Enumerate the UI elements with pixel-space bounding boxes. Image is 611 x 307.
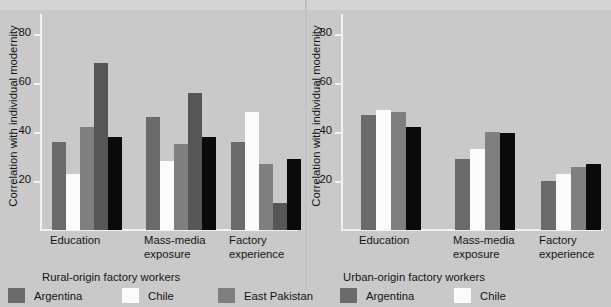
legend-label: Argentina — [366, 290, 414, 302]
bar — [391, 112, 406, 230]
bar — [273, 203, 287, 230]
bar — [376, 110, 391, 230]
bar — [406, 127, 421, 230]
bar — [259, 164, 273, 230]
legend-swatch — [122, 288, 139, 303]
category-label-line: Mass-media — [453, 234, 515, 248]
panel-rural: Correlation with individual modernity .8… — [0, 0, 305, 307]
category-label-line: exposure — [453, 248, 515, 262]
category-label: Education — [359, 234, 409, 248]
bar — [80, 127, 94, 230]
bar — [146, 117, 160, 230]
y-axis-tick-label: .60 — [306, 75, 332, 87]
legend: ArgentinaChileEast Pakistan — [0, 288, 305, 307]
category-label: Mass-mediaexposure — [144, 234, 206, 261]
figure: Correlation with individual modernity .8… — [0, 0, 611, 307]
category-label-line: exposure — [144, 248, 206, 262]
y-axis-tick-mark — [335, 181, 342, 183]
legend-swatch — [454, 288, 471, 303]
y-axis-tick-label: .80 — [0, 26, 31, 38]
bar — [455, 159, 470, 230]
bar — [66, 174, 80, 230]
y-axis-tick-mark — [335, 132, 342, 134]
category-label-line: Education — [50, 234, 100, 248]
category-label: Education — [50, 234, 100, 248]
category-label-line: Factory — [539, 234, 594, 248]
y-axis-tick-mark — [34, 34, 41, 36]
category-label: Factoryexperience — [229, 234, 284, 261]
legend-item[interactable]: Argentina — [8, 288, 82, 303]
legend-label: Chile — [480, 290, 506, 302]
bar — [571, 167, 586, 230]
y-axis-tick-mark — [34, 132, 41, 134]
category-label: Factoryexperience — [539, 234, 594, 261]
y-axis-tick-label: .40 — [306, 124, 332, 136]
category-labels: EducationMass-mediaexposureFactoryexperi… — [343, 234, 603, 266]
bar — [361, 115, 376, 230]
bar-group-bars — [361, 14, 421, 230]
y-axis-tick-label: .40 — [0, 124, 31, 136]
y-axis-tick-mark — [34, 181, 41, 183]
bar — [174, 144, 188, 230]
panel-caption: Rural-origin factory workers — [42, 271, 180, 283]
bar-group-bars — [146, 14, 216, 230]
plot-area — [42, 14, 298, 230]
bar — [202, 137, 216, 230]
legend-item[interactable]: East Pakistan — [218, 288, 313, 303]
y-axis-tick-label: .20 — [306, 173, 332, 185]
bar — [108, 137, 122, 230]
bar-group-bars — [231, 14, 301, 230]
category-label: Mass-mediaexposure — [453, 234, 515, 261]
plot-area — [343, 14, 603, 230]
y-axis-tick-label: .20 — [0, 173, 31, 185]
bar-group-bars — [541, 14, 601, 230]
legend-label: Argentina — [34, 290, 82, 302]
y-axis-tick-mark — [335, 83, 342, 85]
category-label-line: Mass-media — [144, 234, 206, 248]
bar — [556, 174, 571, 230]
bar-group-bars — [52, 14, 122, 230]
bar — [500, 133, 515, 230]
category-labels: EducationMass-mediaexposureFactoryexperi… — [42, 234, 298, 266]
y-axis-tick-mark — [335, 34, 342, 36]
category-label-line: experience — [229, 248, 284, 262]
bar — [52, 142, 66, 230]
legend-swatch — [218, 288, 235, 303]
y-axis-tick-mark — [34, 83, 41, 85]
bar — [245, 112, 259, 230]
bar — [541, 181, 556, 230]
legend-item[interactable]: Chile — [454, 288, 506, 303]
bar — [160, 161, 174, 230]
legend-label: East Pakistan — [244, 290, 313, 302]
bar — [188, 93, 202, 230]
bar-group-bars — [455, 14, 515, 230]
panel-urban: Correlation with individual modernity .8… — [306, 0, 611, 307]
bar — [586, 164, 601, 230]
legend: ArgentinaChile — [306, 288, 611, 307]
legend-label: Chile — [148, 290, 174, 302]
category-label-line: experience — [539, 248, 594, 262]
legend-swatch — [340, 288, 357, 303]
category-label-line: Factory — [229, 234, 284, 248]
bar — [287, 159, 301, 230]
legend-swatch — [8, 288, 25, 303]
category-label-line: Education — [359, 234, 409, 248]
bar — [231, 142, 245, 230]
legend-item[interactable]: Chile — [122, 288, 174, 303]
y-axis-tick-label: .60 — [0, 75, 31, 87]
y-axis-tick-label: .80 — [306, 26, 332, 38]
bar — [470, 149, 485, 230]
bar — [94, 63, 108, 230]
bar — [485, 132, 500, 230]
panel-caption: Urban-origin factory workers — [343, 271, 485, 283]
legend-item[interactable]: Argentina — [340, 288, 414, 303]
